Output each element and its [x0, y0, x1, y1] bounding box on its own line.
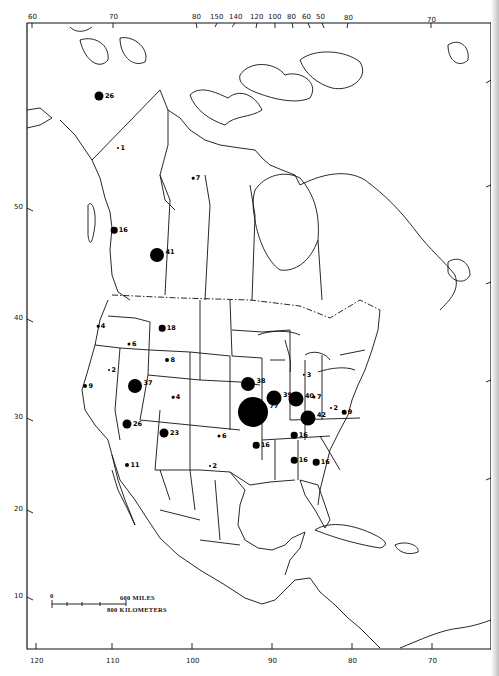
scale-miles-label: 600 MILES: [120, 594, 155, 601]
occurrence-dot: [97, 325, 100, 328]
occurrence-dot: [111, 227, 118, 234]
top-tick-label: 100: [268, 13, 281, 21]
occurrence-count-label: 6: [222, 432, 227, 440]
top-tick-label: 80: [287, 13, 296, 21]
top-tick-label: 70: [109, 13, 118, 21]
occurrence-dot: [108, 369, 110, 371]
occurrence-dot: [125, 463, 129, 467]
occurrence-count-label: 18: [167, 324, 176, 332]
bottom-tick-label: 80: [348, 657, 357, 665]
occurrence-dot: [117, 147, 119, 149]
map-canvas: [0, 0, 499, 676]
central-america: [295, 578, 380, 648]
bottom-tick-label: 90: [268, 657, 277, 665]
occurrence-count-label: 42: [317, 411, 326, 419]
occurrence-dot: [128, 343, 131, 346]
top-tick-label: 120: [250, 13, 263, 21]
occurrence-dot: [313, 459, 320, 466]
occurrence-count-label: 9: [89, 382, 94, 390]
left-tick-label: 50: [14, 203, 23, 211]
occurrence-count-label: 2: [112, 366, 117, 374]
occurrence-dot: [209, 465, 211, 467]
occurrence-count-label: 7: [196, 174, 201, 182]
occurrence-dot: [218, 435, 221, 438]
us-state-lines: [95, 316, 260, 490]
occurrence-count-label: 26: [133, 420, 142, 428]
canada-province-lines: [160, 175, 322, 300]
occurrence-dot: [160, 429, 169, 438]
occurrence-count-label: 23: [170, 429, 179, 437]
scale-km-label: 800 KILOMETERS: [107, 606, 167, 613]
arctic-islands: [190, 90, 262, 125]
occurrence-count-label: 16: [299, 456, 308, 464]
bottom-tick-label: 100: [186, 657, 199, 665]
occurrence-count-label: 16: [321, 458, 330, 466]
occurrence-count-label: 41: [166, 248, 175, 256]
cuba: [315, 525, 385, 548]
occurrence-dot: [313, 396, 316, 399]
top-tick-label: 80: [344, 14, 353, 22]
occurrence-count-label: 2: [213, 462, 218, 470]
occurrence-dot: [289, 392, 304, 407]
occurrence-count-label: 38: [257, 377, 266, 385]
occurrence-count-label: 37: [144, 379, 153, 387]
us-central-states: [200, 300, 360, 480]
left-tick-label: 40: [14, 314, 23, 322]
top-tick-label: 50: [316, 13, 325, 21]
occurrence-dot: [342, 410, 347, 415]
occurrence-count-label: 1: [121, 144, 126, 152]
top-tick-label: 150: [210, 13, 223, 21]
scale-zero-label: 0: [50, 592, 54, 599]
occurrence-count-label: 8: [171, 356, 176, 364]
occurrence-count-label: 16: [119, 226, 128, 234]
occurrence-dot: [95, 92, 104, 101]
occurrence-dot: [159, 325, 166, 332]
south-america-coast: [400, 620, 491, 648]
east-canada-coast: [300, 174, 456, 310]
left-tick-label: 30: [14, 413, 23, 421]
occurrence-dot: [165, 358, 169, 362]
occurrence-dot: [150, 248, 164, 262]
occurrence-count-label: 9: [348, 408, 353, 416]
hudson-bay: [253, 174, 318, 270]
occurrence-dot: [128, 379, 142, 393]
occurrence-dot: [253, 442, 260, 449]
occurrence-dot: [123, 420, 132, 429]
occurrence-count-label: 7: [317, 393, 322, 401]
top-tick-label: 60: [28, 13, 37, 21]
occurrence-dot: [301, 411, 316, 426]
occurrence-count-label: 16: [299, 431, 308, 439]
occurrence-dot: [83, 384, 87, 388]
occurrence-count-label: 16: [261, 441, 270, 449]
occurrence-count-label: 6: [132, 340, 137, 348]
left-tick-label: 10: [14, 592, 23, 600]
hispaniola: [395, 543, 418, 554]
occurrence-dot: [238, 397, 268, 427]
bottom-tick-label: 110: [106, 657, 119, 665]
occurrence-dot: [291, 432, 298, 439]
top-tick-label: 140: [229, 13, 242, 21]
us-canada-border: [112, 295, 380, 318]
florida: [300, 480, 330, 528]
top-tick-label: 70: [427, 16, 436, 24]
top-tick-label: 60: [302, 13, 311, 21]
bottom-tick-label: 70: [428, 657, 437, 665]
occurrence-dot: [172, 396, 175, 399]
occurrence-dot: [267, 391, 282, 406]
top-tick-label: 80: [192, 13, 201, 21]
occurrence-dot: [192, 177, 195, 180]
bottom-tick-label: 120: [30, 657, 43, 665]
left-tick-label: 20: [14, 505, 23, 513]
occurrence-dot: [241, 377, 255, 391]
bc-islands: [88, 204, 95, 243]
occurrence-count-label: 26: [105, 92, 114, 100]
yukon-boundary: [92, 90, 175, 210]
page-edge-shadow: [491, 0, 499, 676]
mexico-state-lines: [160, 470, 240, 545]
occurrence-count-label: 3: [307, 371, 312, 379]
occurrence-count-label: 2: [334, 404, 339, 412]
great-lakes: [258, 331, 365, 372]
occurrence-count-label: 4: [176, 393, 181, 401]
occurrence-count-label: 11: [131, 461, 140, 469]
occurrence-dot: [291, 457, 298, 464]
